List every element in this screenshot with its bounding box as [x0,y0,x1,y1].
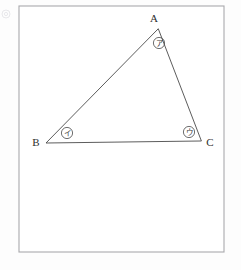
vertex-label-a: A [150,12,158,24]
vertex-label-b: B [32,136,39,148]
vertex-label-c: C [206,136,213,148]
page-corner-speck-inner-icon [4,12,7,15]
angle-marker-b-label: イ [64,129,71,138]
geometry-figure: ア イ ウ A B C [0,0,241,270]
page-corner-speck-icon [2,10,10,18]
angle-marker-c-label: ウ [186,128,193,137]
figure-container: ア イ ウ A B C [0,0,241,270]
angle-marker-a-label: ア [156,39,163,48]
